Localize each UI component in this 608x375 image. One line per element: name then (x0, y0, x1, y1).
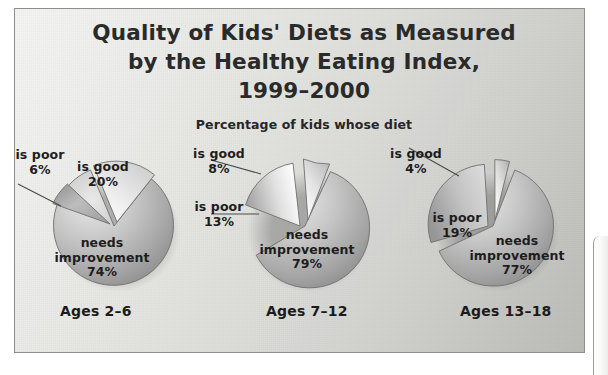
pie-2-label-needs-improvement: needs improvement 79% (256, 228, 358, 272)
pie-2-label-is-good: is good 8% (186, 147, 252, 176)
adjacent-page-edge (593, 236, 608, 375)
chart-subtitle: Percentage of kids whose diet (0, 117, 608, 132)
pie-1-label-is-poor: is poor 6% (7, 148, 73, 177)
pie-1-age-label: Ages 2–6 (60, 303, 132, 319)
pie-3-age-label: Ages 13–18 (460, 303, 552, 319)
pie-3-label-is-good: is good 4% (383, 147, 449, 176)
figure-root: Quality of Kids' Diets as Measured by th… (0, 0, 608, 375)
page-title-line-2: by the Healthy Eating Index, (0, 49, 608, 74)
pie-1-label-needs-improvement: needs improvement 74% (51, 236, 153, 280)
page-title-line-3: 1999–2000 (0, 78, 608, 103)
pie-2-age-label: Ages 7–12 (266, 303, 348, 319)
pie-1-label-is-good: is good 20% (67, 160, 139, 189)
pie-2-label-is-poor: is poor 13% (186, 200, 252, 229)
pie-3-label-needs-improvement: needs improvement 77% (466, 234, 568, 278)
page-title-line-1: Quality of Kids' Diets as Measured (0, 20, 608, 45)
